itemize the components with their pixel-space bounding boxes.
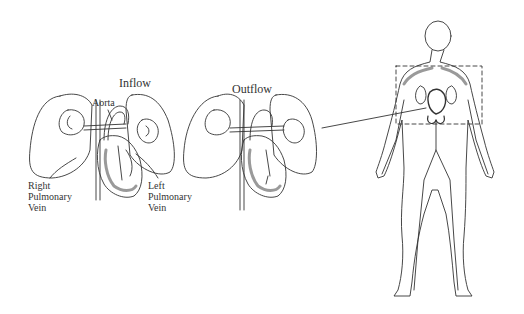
left-pulmonary-vein-line-2: Pulmonary (148, 191, 192, 202)
inflow-title: Inflow (119, 76, 151, 91)
aorta-label: Aorta (92, 97, 115, 108)
outflow-right-lung (184, 94, 244, 178)
outflow-left-lung (270, 94, 317, 174)
figure-drawing (0, 0, 524, 314)
inflow-left-lung (126, 94, 174, 174)
chest-highlight-box (396, 66, 482, 124)
connector-line (322, 108, 426, 128)
outflow-diagram (184, 94, 426, 210)
right-pulmonary-vein-line-1: Right (28, 180, 72, 191)
left-pulmonary-vein-label: Left Pulmonary Vein (148, 180, 192, 213)
inflow-right-lung (30, 94, 92, 178)
left-pulmonary-vein-line-3: Vein (148, 202, 192, 213)
body-heart (428, 89, 446, 114)
right-pulmonary-vein-line-2: Pulmonary (28, 191, 72, 202)
outflow-title: Outflow (232, 82, 272, 97)
anatomy-figure: Inflow Aorta Right Pulmonary Vein Left P… (0, 0, 524, 314)
right-pulmonary-vein-label: Right Pulmonary Vein (28, 180, 72, 213)
left-pulmonary-vein-line-1: Left (148, 180, 192, 191)
body-diagram (376, 21, 494, 296)
body-outline (376, 50, 494, 296)
inflow-aorta-arch (104, 106, 129, 140)
body-head (425, 21, 451, 51)
right-pulmonary-vein-line-3: Vein (28, 202, 72, 213)
